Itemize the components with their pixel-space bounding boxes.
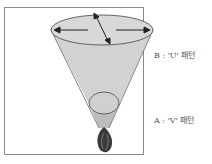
label-u-pattern: B : 'U' 패턴 (154, 49, 195, 60)
label-v-pattern: A : 'V' 패턴 (154, 114, 194, 125)
v-pattern-ellipse (89, 92, 119, 114)
fire-pattern-diagram (0, 0, 212, 164)
